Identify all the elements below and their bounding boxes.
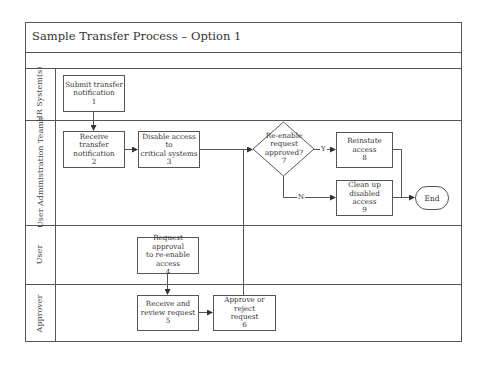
edge-label-no: N [297,193,305,201]
step-9-clean-up-disabled-access: Clean up disabled access 9 [336,180,393,216]
step-4-request-approval: Request approval to re-enable access 4 [137,237,199,274]
step-8-reinstate-access: Reinstate access 8 [336,132,393,168]
step-5-receive-review-request: Receive and review request 5 [137,295,199,331]
step-6-approve-or-reject: Approve or reject request 6 [213,295,276,331]
step-2-receive-transfer-notification: Receive transfer notification 2 [63,131,125,168]
step-7-decision-reenable-approved: Re-enable request approved? 7 [258,132,310,166]
edge-label-yes: Y [320,145,327,153]
step-1-submit-transfer-notification: Submit transfer notification 1 [63,75,125,112]
end-terminator: End [415,186,449,210]
step-3-disable-access: Disable access to critical systems 3 [138,131,200,168]
